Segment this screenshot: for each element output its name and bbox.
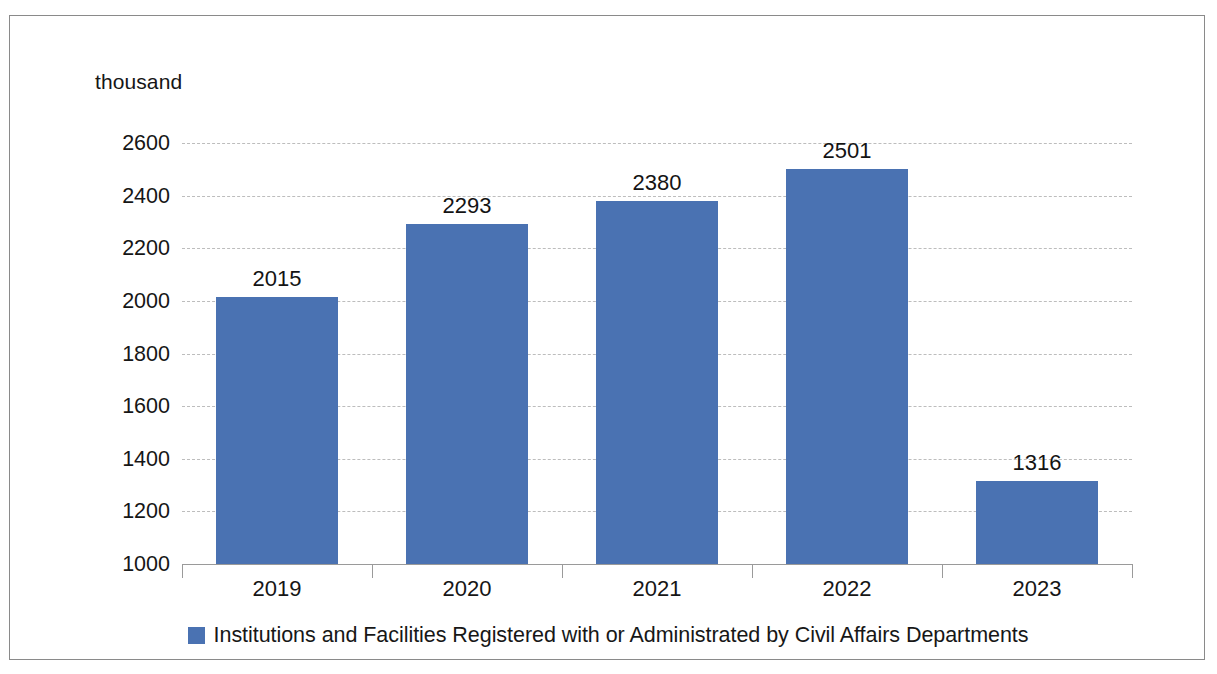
y-axis-unit-caption: thousand xyxy=(95,70,182,94)
y-axis-tick-labels: 260024002200200018001600140012001000 xyxy=(98,143,170,564)
bar[interactable] xyxy=(976,481,1098,564)
bar-value-label: 2015 xyxy=(253,266,302,292)
y-axis-tick-label: 2600 xyxy=(98,131,170,156)
bar-value-label: 2501 xyxy=(823,138,872,164)
x-axis-category-label: 2020 xyxy=(443,576,492,602)
y-axis-line xyxy=(182,564,183,578)
gridline xyxy=(182,143,1132,144)
bar[interactable] xyxy=(786,169,908,564)
x-axis-tick xyxy=(752,564,753,578)
y-axis-tick-label: 2400 xyxy=(98,183,170,208)
y-axis-tick-label: 2000 xyxy=(98,288,170,313)
chart-frame: thousand 2600240022002000180016001400120… xyxy=(9,15,1205,660)
chart-legend: Institutions and Facilities Registered w… xyxy=(10,623,1206,648)
bar[interactable] xyxy=(596,201,718,564)
x-axis-line xyxy=(182,564,1132,565)
y-axis-tick-label: 2200 xyxy=(98,236,170,261)
y-axis-tick-label: 1000 xyxy=(98,552,170,577)
bar-value-label: 1316 xyxy=(1013,450,1062,476)
legend-color-swatch-icon xyxy=(188,627,205,644)
legend-entry-label: Institutions and Facilities Registered w… xyxy=(214,623,1029,648)
x-axis-category-label: 2021 xyxy=(633,576,682,602)
x-axis-tick xyxy=(942,564,943,578)
x-axis-tick xyxy=(372,564,373,578)
x-axis-tick xyxy=(1132,564,1133,578)
x-axis-category-label: 2023 xyxy=(1013,576,1062,602)
y-axis-tick-label: 1400 xyxy=(98,446,170,471)
bar[interactable] xyxy=(406,224,528,564)
y-axis-tick-label: 1800 xyxy=(98,341,170,366)
y-axis-tick-label: 1600 xyxy=(98,394,170,419)
plot-area: 20152293238025011316 xyxy=(182,143,1132,564)
x-axis-category-label: 2022 xyxy=(823,576,872,602)
bar-value-label: 2293 xyxy=(443,193,492,219)
bar[interactable] xyxy=(216,297,338,564)
x-axis-category-label: 2019 xyxy=(253,576,302,602)
bar-value-label: 2380 xyxy=(633,170,682,196)
x-axis-tick xyxy=(562,564,563,578)
y-axis-tick-label: 1200 xyxy=(98,499,170,524)
